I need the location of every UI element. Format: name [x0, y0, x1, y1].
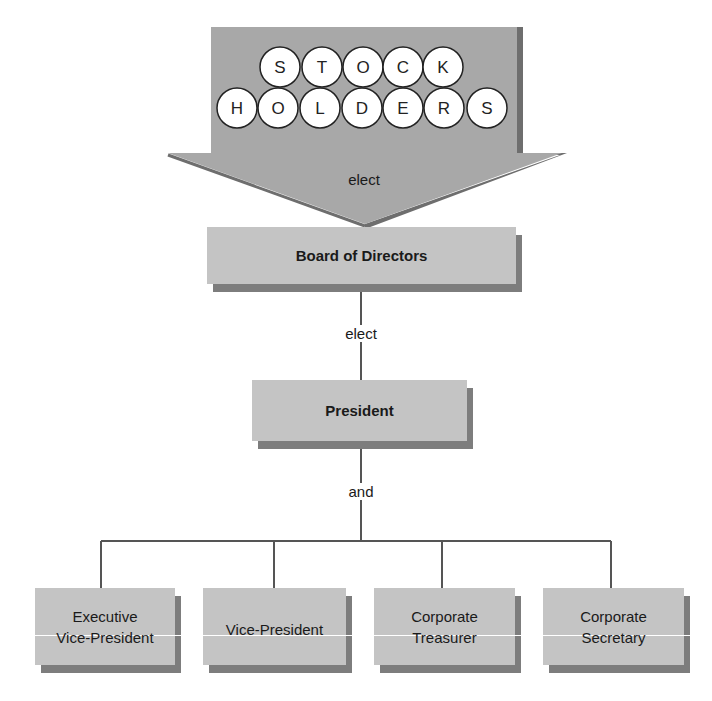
letter-r: R	[438, 99, 450, 118]
letter-o2: O	[271, 99, 284, 118]
officer-1-line2: Vice-President	[56, 627, 153, 648]
letter-t: T	[317, 58, 327, 77]
president-and-label: and	[346, 483, 375, 500]
president-box: President	[252, 380, 467, 441]
letter-s2: S	[481, 99, 492, 118]
president-label: President	[325, 401, 393, 421]
board-of-directors-label: Board of Directors	[296, 246, 428, 266]
executive-vice-president-box: Executive Vice-President	[35, 588, 175, 665]
officer-1-line1: Executive	[56, 606, 153, 627]
letter-l: L	[315, 99, 324, 118]
letter-c: C	[397, 58, 409, 77]
letter-e: E	[397, 99, 408, 118]
officer-2-line1: Vice-President	[226, 619, 323, 640]
letter-o: O	[356, 58, 369, 77]
board-elect-label: elect	[343, 325, 379, 342]
officer-3-line2: Treasurer	[411, 627, 478, 648]
officer-3-line1: Corporate	[411, 606, 478, 627]
officer-4-line1: Corporate	[580, 606, 647, 627]
letter-k: K	[437, 58, 449, 77]
letter-d: D	[356, 99, 368, 118]
corporate-secretary-box: Corporate Secretary	[543, 588, 684, 665]
officer-4-line2: Secretary	[580, 627, 647, 648]
letter-h: H	[231, 99, 243, 118]
stockholders-elect-label: elect	[348, 171, 380, 188]
letter-s: S	[274, 58, 285, 77]
corporate-treasurer-box: Corporate Treasurer	[374, 588, 515, 665]
board-of-directors-box: Board of Directors	[207, 227, 516, 284]
vice-president-box: Vice-President	[203, 588, 346, 665]
